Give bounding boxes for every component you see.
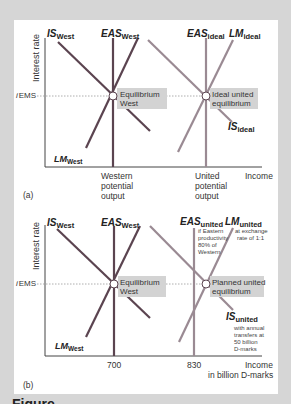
svg-text:80% of: 80% of <box>198 242 217 248</box>
i-ems-label-a: iEMS <box>16 91 36 100</box>
svg-text:Western: Western <box>198 249 220 255</box>
svg-text:potential: potential <box>195 181 227 191</box>
svg-text:West: West <box>120 99 139 108</box>
is-ideal-label-a: ISideal <box>228 121 255 134</box>
income-label-a: Income <box>245 171 273 181</box>
lm-west-label-b: LMWest <box>55 341 84 352</box>
lm-united-note: at exchange <box>235 228 268 234</box>
svg-text:rate of 1:1: rate of 1:1 <box>237 235 265 241</box>
svg-text:output: output <box>195 191 219 201</box>
panel-b-tag: (b) <box>23 380 34 390</box>
income-label-b: Income <box>245 360 273 370</box>
income-unit-label-b: in billion D-marks <box>208 370 273 380</box>
svg-text:equilibrium: equilibrium <box>212 287 251 296</box>
tick-830: 830 <box>187 360 201 370</box>
united-potential-output-label: United <box>195 171 220 181</box>
lm-west-label-a: LMWest <box>54 154 83 165</box>
svg-text:equilibrium: equilibrium <box>212 99 251 108</box>
lm-ideal-label-a: LMideal <box>229 28 261 41</box>
is-west-curve-b <box>57 229 150 318</box>
is-ideal-curve-a <box>148 40 232 122</box>
equilibrium-west-point-b <box>110 280 118 288</box>
svg-text:potential: potential <box>101 181 133 191</box>
is-west-label-b: ISWest <box>47 217 75 230</box>
svg-text:transfers at: transfers at <box>234 332 264 338</box>
equilibrium-west-point-a <box>109 92 117 100</box>
planned-united-label-b: Planned united <box>212 278 265 287</box>
is-west-curve-a <box>58 42 150 131</box>
svg-text:50 billion: 50 billion <box>234 339 258 345</box>
svg-text:output: output <box>101 191 125 201</box>
equilibrium-west-label-b: Equilibrium <box>120 278 160 287</box>
is-united-note: with annual <box>233 325 264 331</box>
ideal-united-point-a <box>202 92 210 100</box>
panel-a: Interest rate iEMS ISWest EASWest LMWest… <box>16 28 273 201</box>
is-united-label-b: ISunited <box>226 311 258 324</box>
figure-caption-cutoff: Figure <box>12 397 55 404</box>
eas-united-note: if Eastern <box>198 228 223 234</box>
svg-text:productivity: productivity <box>198 235 228 241</box>
eas-west-label-a: EASWest <box>101 28 140 41</box>
planned-united-point-b <box>202 280 210 288</box>
tick-700: 700 <box>107 360 121 370</box>
ideal-united-label-a: Ideal united <box>212 90 253 99</box>
panel-b: Interest rate iEMS ISWest EASWest LMWest… <box>16 216 273 390</box>
eas-west-label-b: EASWest <box>101 217 140 230</box>
y-axis-label-a: Interest rate <box>31 34 41 82</box>
i-ems-label-b: iEMS <box>16 279 36 288</box>
svg-text:D-marks: D-marks <box>234 346 257 352</box>
equilibrium-west-label-a: Equilibrium <box>120 90 160 99</box>
is-lm-eas-diagram: .ax { stroke: #444; stroke-width: 1; fil… <box>0 0 291 404</box>
y-axis-label-b: Interest rate <box>31 222 41 270</box>
panel-a-tag: (a) <box>23 190 34 200</box>
svg-text:West: West <box>120 287 139 296</box>
is-west-label-a: ISWest <box>47 28 75 41</box>
western-potential-output-label: Western <box>101 171 133 181</box>
